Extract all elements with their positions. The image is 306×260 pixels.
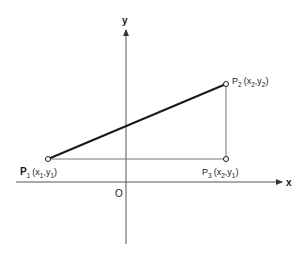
point-p3 <box>224 157 229 162</box>
point-p1 <box>46 157 51 162</box>
point-p1-label: P1(x1,y1) <box>20 166 57 179</box>
x-axis-label: x <box>286 177 292 188</box>
coordinate-diagram: y x O P1(x1,y1) P2(x2,y2) P3(x2,y1) <box>0 0 306 260</box>
point-p2-label: P2(x2,y2) <box>232 76 268 88</box>
point-p2 <box>224 82 229 87</box>
origin-label: O <box>115 188 123 199</box>
point-p3-label: P3(x2,y1) <box>202 167 238 179</box>
y-axis-label: y <box>122 15 128 26</box>
segment-p1-p2 <box>48 84 226 159</box>
